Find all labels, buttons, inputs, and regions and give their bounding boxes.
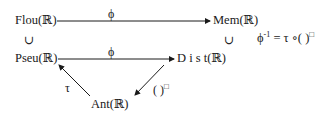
inclusion-left: ∪ <box>24 34 34 46</box>
label-phi-top: ϕ <box>108 8 114 20</box>
node-flou: Flou(ℝ) <box>15 13 57 27</box>
label-tau: τ <box>65 82 70 94</box>
node-pseu: Pseu(ℝ) <box>15 51 57 65</box>
inclusion-right: ∪ <box>224 34 234 46</box>
label-transform: ( )□ <box>153 81 169 96</box>
label-phi-middle: ϕ <box>108 46 114 58</box>
node-dist: D i s t(ℝ) <box>177 51 226 65</box>
node-ant: Ant(ℝ) <box>91 97 128 111</box>
equation: ϕ-1 = τ ∘( )□ <box>257 28 314 45</box>
arrow-left-diag <box>59 65 90 96</box>
node-mem: Mem(ℝ) <box>213 13 258 27</box>
